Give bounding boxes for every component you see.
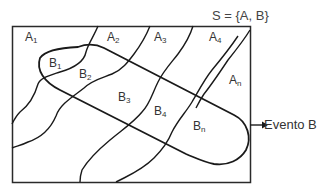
label-a1: A1: [25, 31, 37, 45]
sample-space-title: S = {A, B}: [212, 9, 269, 22]
label-b1: B1: [49, 57, 61, 71]
partition-boundary-4: [116, 36, 238, 182]
label-an: An: [229, 74, 241, 88]
label-b2: B2: [79, 68, 91, 82]
label-b3: B3: [118, 91, 130, 105]
label-b4: B4: [154, 105, 166, 119]
label-a4: A4: [209, 31, 221, 45]
label-a2: A2: [107, 31, 119, 45]
event-b-label: Evento B: [264, 118, 317, 131]
partition-diagram: [0, 0, 332, 185]
partition-boundary-n: [196, 30, 250, 108]
label-a3: A3: [154, 31, 166, 45]
label-bn: Bn: [193, 120, 205, 134]
